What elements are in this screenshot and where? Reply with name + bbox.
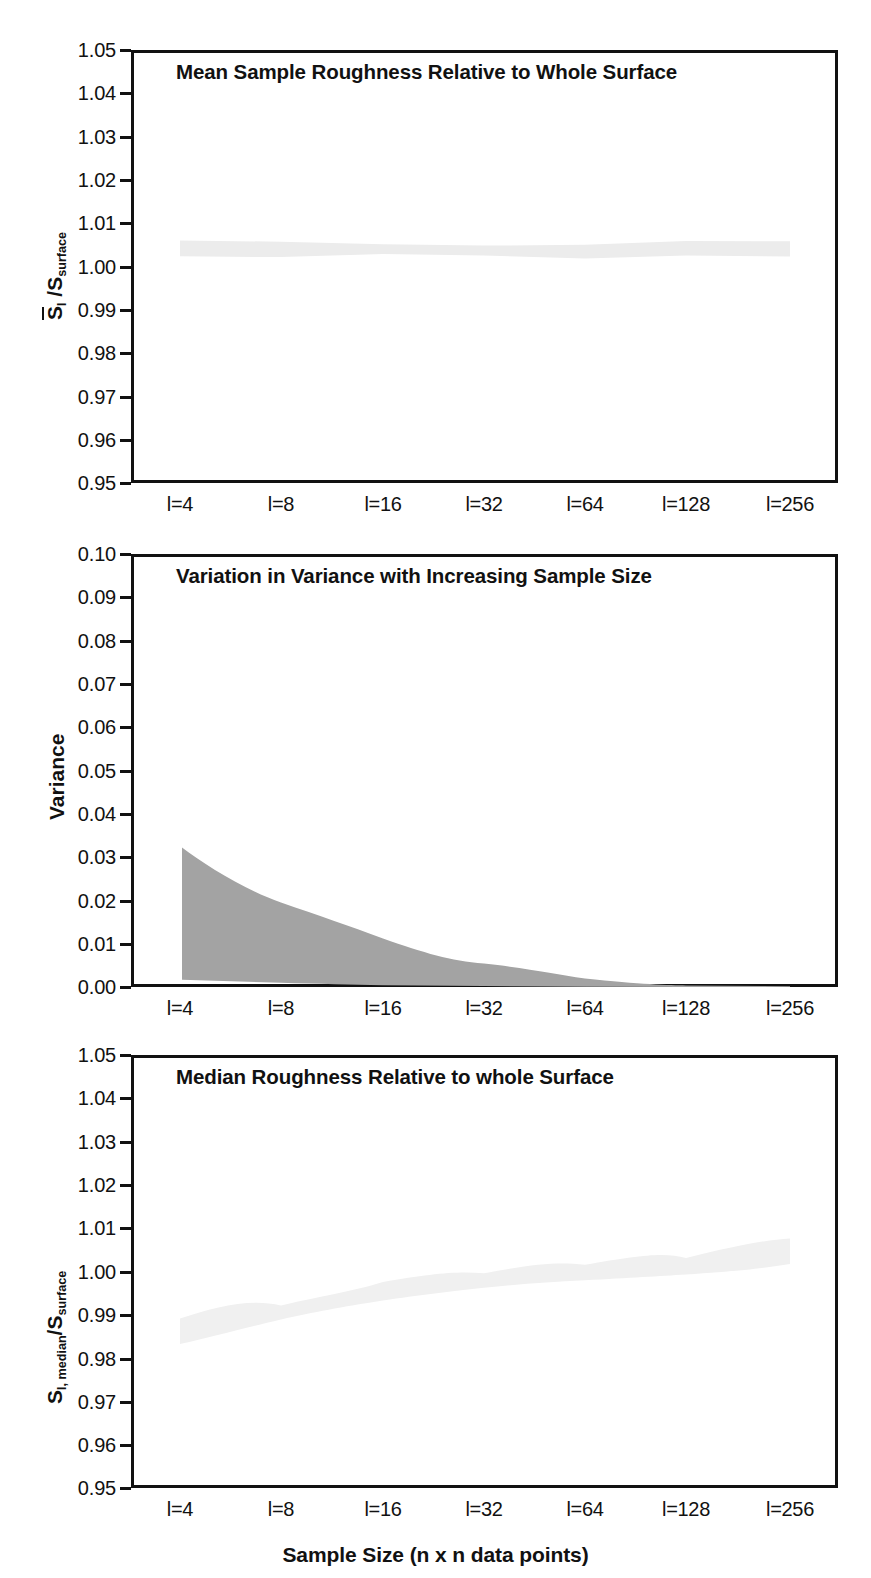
ytick-mark [120, 640, 131, 643]
xtick-label: l=32 [434, 998, 534, 1018]
xtick-label: l=64 [535, 494, 635, 514]
ytick-mark [120, 1097, 131, 1100]
ytick-label: 1.04 [50, 1088, 116, 1108]
xtick-label: l=16 [333, 998, 433, 1018]
xtick-label: l=4 [130, 998, 230, 1018]
ytick-label: 0.01 [50, 934, 116, 954]
ytick-label: 0.96 [50, 430, 116, 450]
xtick-label: l=32 [434, 494, 534, 514]
yaxis-label-sub-surface: surface [55, 1271, 69, 1316]
panel-title: Mean Sample Roughness Relative to Whole … [176, 60, 677, 84]
xtick-label: l=256 [740, 1499, 840, 1519]
xtick-label: l=256 [740, 998, 840, 1018]
ytick-mark [120, 396, 131, 399]
ytick-label: 0.07 [50, 674, 116, 694]
xtick-label: l=128 [636, 1499, 736, 1519]
xtick-label: l=8 [231, 998, 331, 1018]
yaxis-label-sub-surface: surface [55, 232, 69, 277]
ytick-label: 0.02 [50, 891, 116, 911]
ytick-mark [120, 266, 131, 269]
xtick-label: l=256 [740, 494, 840, 514]
panel-median-roughness: 1.05 1.04 1.03 1.02 1.01 1.00 0.99 0.98 … [0, 1024, 871, 1578]
ytick-label: 0.03 [50, 847, 116, 867]
ytick-label: 1.02 [50, 170, 116, 190]
panel-title: Median Roughness Relative to whole Surfa… [176, 1065, 614, 1089]
ytick-mark [120, 683, 131, 686]
yaxis-label-s1: S [43, 1390, 66, 1404]
xaxis-label: Sample Size (n x n data points) [0, 1543, 871, 1567]
band-path-panel2 [182, 848, 790, 988]
ytick-mark [120, 1444, 131, 1447]
ytick-mark [120, 1141, 131, 1144]
ytick-label: 0.09 [50, 587, 116, 607]
panel-variance: 0.10 0.09 0.08 0.07 0.06 0.05 0.04 0.03 … [0, 520, 871, 1024]
yaxis-label-s2: S [43, 1316, 66, 1330]
ytick-mark [120, 92, 131, 95]
yaxis-label-panel2: Variance [46, 734, 67, 820]
ytick-mark [120, 222, 131, 225]
ytick-label: 1.01 [50, 1218, 116, 1238]
ytick-label: 1.05 [50, 1045, 116, 1065]
ytick-label: 1.02 [50, 1175, 116, 1195]
ytick-mark [120, 1271, 131, 1274]
yaxis-label-sub-l: l [55, 302, 69, 306]
ytick-mark [120, 943, 131, 946]
panel-mean-roughness: 1.05 1.04 1.03 1.02 1.01 1.00 0.99 0.98 … [0, 0, 871, 520]
ytick-mark [120, 1401, 131, 1404]
band-path-panel1 [180, 240, 790, 258]
ytick-label: 0.08 [50, 631, 116, 651]
multi-panel-chart-figure: 1.05 1.04 1.03 1.02 1.01 1.00 0.99 0.98 … [0, 0, 871, 1578]
xtick-label: l=16 [333, 494, 433, 514]
xtick-label: l=32 [434, 1499, 534, 1519]
xtick-label: l=4 [130, 494, 230, 514]
panel-title: Variation in Variance with Increasing Sa… [176, 564, 652, 588]
ytick-label: 0.98 [50, 343, 116, 363]
band-panel3 [0, 1024, 871, 1578]
yaxis-label-s2: S [43, 277, 66, 291]
ytick-mark [120, 1314, 131, 1317]
yaxis-label-panel3: Sl, median/Ssurface [44, 1271, 65, 1404]
xtick-label: l=128 [636, 494, 736, 514]
ytick-label: 0.95 [50, 473, 116, 493]
ytick-mark [120, 726, 131, 729]
yaxis-label-sbar: S [44, 306, 65, 320]
ytick-mark [120, 553, 131, 556]
xtick-label: l=64 [535, 998, 635, 1018]
ytick-mark [120, 1227, 131, 1230]
ytick-label: 1.04 [50, 83, 116, 103]
xtick-label: l=8 [231, 494, 331, 514]
xtick-label: l=8 [231, 1499, 331, 1519]
ytick-mark [120, 439, 131, 442]
ytick-mark [120, 813, 131, 816]
ytick-mark [120, 986, 131, 989]
yaxis-label-panel1: Sl /Ssurface [44, 232, 65, 320]
xtick-label: l=4 [130, 1499, 230, 1519]
ytick-mark [120, 482, 131, 485]
ytick-mark [120, 136, 131, 139]
xtick-label: l=128 [636, 998, 736, 1018]
ytick-mark [120, 596, 131, 599]
band-path-panel3 [180, 1239, 790, 1345]
ytick-label: 1.03 [50, 1132, 116, 1152]
xtick-label: l=16 [333, 1499, 433, 1519]
ytick-label: 1.01 [50, 213, 116, 233]
xtick-label: l=64 [535, 1499, 635, 1519]
ytick-label: 0.00 [50, 977, 116, 997]
ytick-mark [120, 770, 131, 773]
ytick-mark [120, 1487, 131, 1490]
ytick-mark [120, 49, 131, 52]
ytick-mark [120, 352, 131, 355]
ytick-mark [120, 900, 131, 903]
ytick-mark [120, 179, 131, 182]
ytick-mark [120, 1054, 131, 1057]
ytick-label: 0.10 [50, 544, 116, 564]
ytick-label: 0.95 [50, 1478, 116, 1498]
ytick-mark [120, 1184, 131, 1187]
ytick-label: 0.96 [50, 1435, 116, 1455]
ytick-label: 1.05 [50, 40, 116, 60]
ytick-label: 1.03 [50, 127, 116, 147]
ytick-label: 0.97 [50, 387, 116, 407]
ytick-mark [120, 856, 131, 859]
ytick-mark [120, 309, 131, 312]
yaxis-label-sub-lmedian: l, median [55, 1335, 69, 1390]
